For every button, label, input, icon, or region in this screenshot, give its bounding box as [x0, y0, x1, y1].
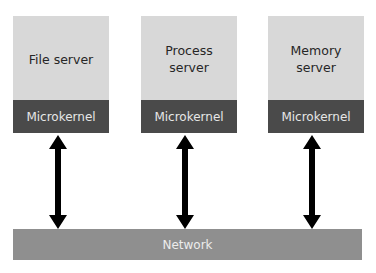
- process-server-node: Process server Microkernel: [141, 16, 237, 133]
- file-server-box: File server: [13, 16, 109, 100]
- memory-server-box: Memory server: [268, 16, 364, 100]
- bidirectional-arrow-icon: [302, 135, 322, 229]
- file-server-microkernel: Microkernel: [13, 100, 109, 133]
- file-server-node: File server Microkernel: [13, 16, 109, 133]
- network-bar: Network: [13, 229, 362, 260]
- bidirectional-arrow-icon: [48, 135, 68, 229]
- memory-server-microkernel: Microkernel: [268, 100, 364, 133]
- memory-server-node: Memory server Microkernel: [268, 16, 364, 133]
- process-server-microkernel: Microkernel: [141, 100, 237, 133]
- bidirectional-arrow-icon: [175, 135, 195, 229]
- process-server-box: Process server: [141, 16, 237, 100]
